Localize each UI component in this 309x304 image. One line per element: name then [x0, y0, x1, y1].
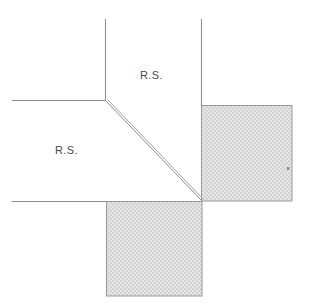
shaded-square-bottom [107, 202, 203, 297]
diagram-svg [0, 0, 309, 304]
diagram-canvas: R.S. R.S. [0, 0, 309, 304]
diagonal-line-inner [108, 100, 204, 200]
shaded-square-right [202, 106, 293, 202]
diagonal-line-outer [106, 101, 203, 202]
label-rs-upper: R.S. [140, 69, 163, 81]
speck-artifact [287, 167, 289, 170]
label-rs-lower: R.S. [55, 144, 78, 156]
